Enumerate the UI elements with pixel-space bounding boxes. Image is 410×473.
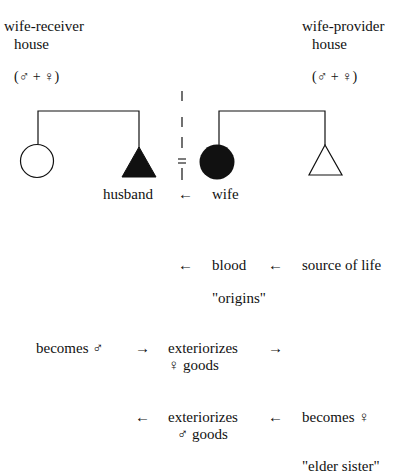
becomes-male-label: becomes ♂ — [36, 340, 103, 357]
wife-filled-circle — [200, 145, 235, 180]
exteriorizes-male-goods-line1: exteriorizes — [168, 409, 238, 426]
arrow-left-icon: ← — [178, 257, 193, 274]
right-male-outline-triangle — [309, 145, 342, 175]
blood-label: blood — [212, 257, 246, 274]
becomes-female-label: becomes ♀ — [302, 409, 369, 426]
right-sibling-bracket — [219, 111, 325, 145]
elder-sister-note: "elder sister" — [302, 458, 380, 473]
husband-label: husband — [103, 186, 153, 203]
kinship-diagram — [0, 0, 410, 473]
exteriorizes-male-goods-line2: ♂ goods — [177, 426, 228, 443]
arrow-right-icon: → — [268, 340, 283, 357]
arrow-right-icon: → — [135, 340, 150, 357]
marriage-equals-icon — [178, 159, 186, 163]
marriage-arrow-left-icon: ← — [178, 186, 193, 203]
husband-filled-triangle — [122, 147, 156, 177]
origins-note: "origins" — [212, 290, 266, 307]
source-of-life-label: source of life — [302, 257, 381, 274]
arrow-left-icon: ← — [135, 409, 150, 426]
wife-label: wife — [212, 186, 239, 203]
arrow-left-icon: ← — [268, 409, 283, 426]
arrow-left-icon: ← — [268, 257, 283, 274]
exteriorizes-female-goods-line1: exteriorizes — [168, 340, 238, 357]
exteriorizes-female-goods-line2: ♀ goods — [168, 357, 219, 374]
left-female-circle — [21, 145, 54, 178]
left-sibling-bracket — [38, 111, 139, 148]
